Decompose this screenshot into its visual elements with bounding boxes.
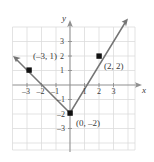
point-label-neg3-1: (–3, 1): [33, 52, 57, 61]
left-branch-arrowhead: [13, 56, 21, 62]
point-label-2-2: (2, 2): [104, 62, 124, 71]
point-marker-0-neg2: [67, 110, 72, 115]
x-tick-label-3: 3: [112, 88, 116, 96]
x-tick-label-1: 1: [83, 88, 87, 96]
axes: [13, 23, 140, 152]
right-branch-arrowhead: [122, 19, 128, 27]
graph-canvas: [0, 0, 154, 162]
y-tick-label-neg1: –1: [57, 96, 65, 104]
y-tick-label-2: 2: [60, 53, 64, 61]
point-label-0-neg2: (0, –2): [76, 119, 100, 128]
y-axis-label: y: [62, 14, 66, 23]
y-tick-label-neg3: –3: [57, 125, 65, 133]
point-marker-neg3-1: [26, 67, 31, 72]
y-tick-label-3: 3: [60, 38, 64, 46]
x-axis-label: x: [142, 86, 146, 95]
x-tick-label-neg2: –2: [37, 88, 45, 96]
y-tick-label-1: 1: [60, 67, 64, 75]
y-tick-label-neg2: –2: [57, 111, 65, 119]
grid: [13, 27, 136, 150]
x-tick-label-2: 2: [97, 88, 101, 96]
x-tick-label-neg3: –3: [22, 88, 30, 96]
point-marker-2-2: [96, 53, 101, 58]
graph-figure: –3 –2 –1 1 2 3 3 2 1 –1 –2 –3 y x (–3, 1…: [0, 0, 154, 162]
